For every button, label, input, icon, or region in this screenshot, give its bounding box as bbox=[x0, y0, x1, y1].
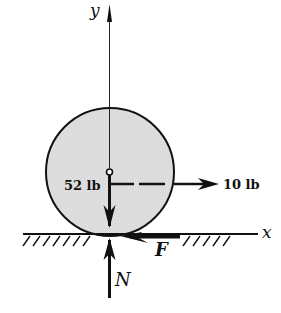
y-axis-arrowhead-icon bbox=[107, 4, 112, 22]
normal-force-arrow bbox=[104, 238, 116, 298]
weight-label: 52 lb bbox=[64, 178, 101, 193]
y-axis-label: y bbox=[89, 0, 100, 20]
normal-label: N bbox=[114, 269, 132, 290]
free-body-diagram: y 52 lb 10 lb x bbox=[0, 0, 281, 313]
applied-force-label: 10 lb bbox=[223, 177, 260, 192]
center-pin bbox=[107, 169, 113, 175]
x-axis-label: x bbox=[262, 222, 272, 242]
friction-label: F bbox=[154, 239, 169, 260]
